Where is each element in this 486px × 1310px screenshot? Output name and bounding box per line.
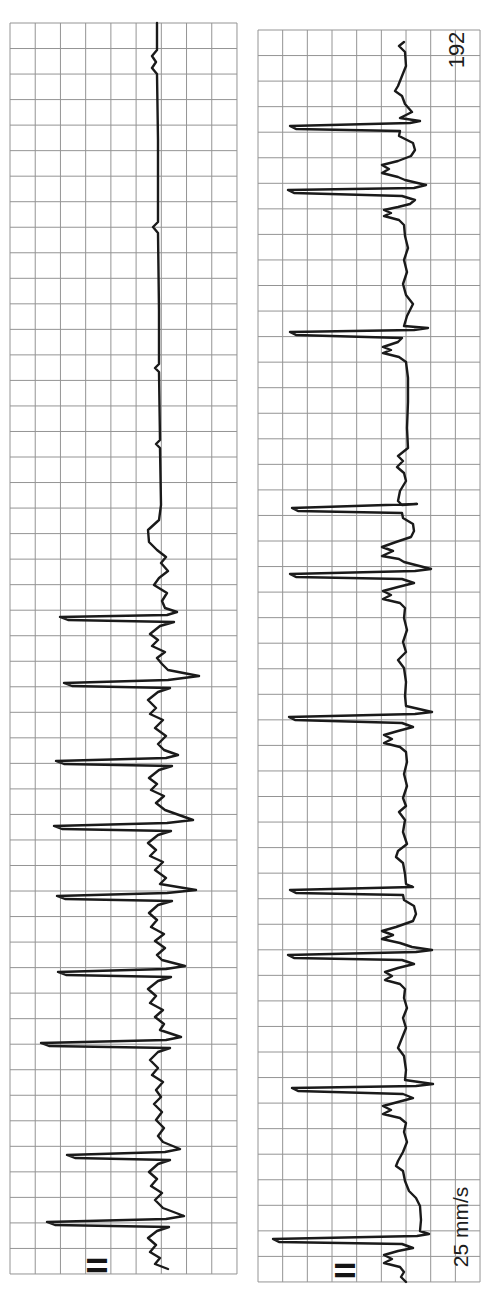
lead-label-strip1: II <box>82 1256 112 1275</box>
ecg-grid-strip1 <box>10 23 237 1274</box>
strip-end-number: 192 <box>446 32 468 69</box>
paper-speed-label: 25 mm/s <box>450 1187 471 1268</box>
ecg-canvas <box>0 0 486 1310</box>
ecg-trace-strip2 <box>273 42 433 1282</box>
ecg-scan-page: II II 25 mm/s 192 <box>0 0 486 1310</box>
lead-label-strip2: II <box>330 1261 360 1280</box>
ecg-trace-strip1 <box>41 23 199 1269</box>
